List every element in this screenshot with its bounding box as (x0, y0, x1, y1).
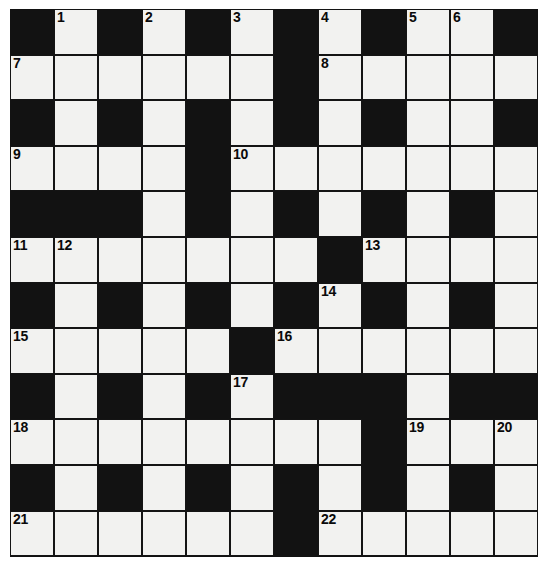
crossword-cell[interactable] (406, 146, 450, 192)
crossword-cell[interactable]: 22 (318, 511, 362, 557)
crossword-cell[interactable] (450, 100, 494, 146)
crossword-cell[interactable]: 10 (230, 146, 274, 192)
crossword-cell[interactable]: 9 (10, 146, 54, 192)
crossword-cell[interactable] (362, 328, 406, 374)
crossword-cell[interactable] (230, 419, 274, 465)
crossword-cell[interactable]: 7 (10, 55, 54, 101)
crossword-cell[interactable] (142, 237, 186, 283)
crossword-cell[interactable] (186, 328, 230, 374)
crossword-cell[interactable] (142, 511, 186, 557)
crossword-cell[interactable] (450, 328, 494, 374)
crossword-cell[interactable] (318, 419, 362, 465)
crossword-cell[interactable]: 6 (450, 9, 494, 55)
crossword-cell[interactable] (142, 191, 186, 237)
crossword-cell[interactable] (230, 465, 274, 511)
crossword-cell[interactable] (142, 465, 186, 511)
crossword-cell[interactable] (494, 191, 538, 237)
crossword-cell[interactable] (98, 237, 142, 283)
crossword-cell[interactable] (494, 465, 538, 511)
crossword-cell[interactable] (54, 283, 98, 329)
crossword-cell[interactable] (274, 419, 318, 465)
crossword-cell[interactable] (142, 419, 186, 465)
crossword-cell[interactable]: 5 (406, 9, 450, 55)
crossword-cell[interactable] (406, 237, 450, 283)
crossword-cell[interactable] (230, 55, 274, 101)
crossword-cell[interactable] (494, 511, 538, 557)
crossword-cell[interactable] (98, 419, 142, 465)
crossword-cell[interactable]: 12 (54, 237, 98, 283)
crossword-cell[interactable] (54, 511, 98, 557)
crossword-cell[interactable] (54, 146, 98, 192)
crossword-cell[interactable] (98, 146, 142, 192)
crossword-cell[interactable]: 19 (406, 419, 450, 465)
crossword-cell[interactable] (230, 237, 274, 283)
crossword-cell[interactable] (142, 328, 186, 374)
crossword-cell[interactable] (186, 511, 230, 557)
crossword-cell[interactable] (230, 283, 274, 329)
crossword-cell[interactable] (54, 374, 98, 420)
crossword-cell[interactable] (362, 511, 406, 557)
crossword-cell[interactable] (406, 374, 450, 420)
crossword-cell[interactable] (98, 328, 142, 374)
crossword-cell[interactable]: 18 (10, 419, 54, 465)
crossword-cell[interactable]: 15 (10, 328, 54, 374)
crossword-cell[interactable] (406, 465, 450, 511)
crossword-cell[interactable] (186, 419, 230, 465)
crossword-cell[interactable] (98, 511, 142, 557)
crossword-cell[interactable] (494, 283, 538, 329)
crossword-grid[interactable]: 12345678910111213141516171819202122 (10, 9, 538, 557)
crossword-cell[interactable] (142, 55, 186, 101)
crossword-cell[interactable]: 14 (318, 283, 362, 329)
crossword-cell[interactable] (54, 100, 98, 146)
crossword-cell[interactable] (450, 511, 494, 557)
crossword-cell[interactable] (142, 100, 186, 146)
crossword-cell[interactable] (142, 283, 186, 329)
crossword-cell[interactable] (450, 419, 494, 465)
crossword-cell[interactable] (450, 146, 494, 192)
crossword-cell[interactable] (54, 419, 98, 465)
crossword-cell[interactable] (362, 55, 406, 101)
crossword-cell[interactable] (494, 328, 538, 374)
crossword-cell[interactable]: 2 (142, 9, 186, 55)
crossword-cell[interactable]: 11 (10, 237, 54, 283)
crossword-cell[interactable] (274, 237, 318, 283)
crossword-cell[interactable] (142, 374, 186, 420)
crossword-cell[interactable] (406, 100, 450, 146)
crossword-cell[interactable] (230, 191, 274, 237)
crossword-cell[interactable] (406, 191, 450, 237)
crossword-cell[interactable] (54, 55, 98, 101)
crossword-cell[interactable]: 13 (362, 237, 406, 283)
crossword-cell[interactable] (230, 511, 274, 557)
crossword-cell[interactable] (142, 146, 186, 192)
crossword-cell[interactable]: 20 (494, 419, 538, 465)
crossword-cell[interactable] (406, 328, 450, 374)
crossword-cell[interactable] (230, 100, 274, 146)
crossword-cell[interactable]: 17 (230, 374, 274, 420)
crossword-cell[interactable]: 3 (230, 9, 274, 55)
crossword-cell[interactable]: 8 (318, 55, 362, 101)
crossword-cell[interactable] (186, 237, 230, 283)
crossword-cell[interactable] (406, 283, 450, 329)
crossword-cell[interactable]: 16 (274, 328, 318, 374)
crossword-cell[interactable]: 21 (10, 511, 54, 557)
crossword-cell[interactable] (274, 146, 318, 192)
crossword-cell[interactable] (318, 465, 362, 511)
crossword-cell[interactable] (494, 146, 538, 192)
crossword-cell[interactable] (318, 146, 362, 192)
crossword-cell[interactable] (406, 55, 450, 101)
crossword-cell[interactable]: 4 (318, 9, 362, 55)
crossword-cell[interactable] (318, 328, 362, 374)
crossword-cell[interactable] (186, 55, 230, 101)
crossword-cell[interactable] (54, 328, 98, 374)
crossword-cell[interactable] (318, 100, 362, 146)
crossword-cell[interactable] (494, 55, 538, 101)
crossword-cell[interactable] (54, 465, 98, 511)
crossword-cell[interactable] (362, 146, 406, 192)
crossword-cell[interactable] (494, 237, 538, 283)
crossword-cell[interactable] (450, 55, 494, 101)
crossword-cell[interactable] (318, 191, 362, 237)
crossword-cell[interactable] (450, 237, 494, 283)
crossword-cell[interactable] (98, 55, 142, 101)
crossword-cell[interactable]: 1 (54, 9, 98, 55)
crossword-cell[interactable] (406, 511, 450, 557)
